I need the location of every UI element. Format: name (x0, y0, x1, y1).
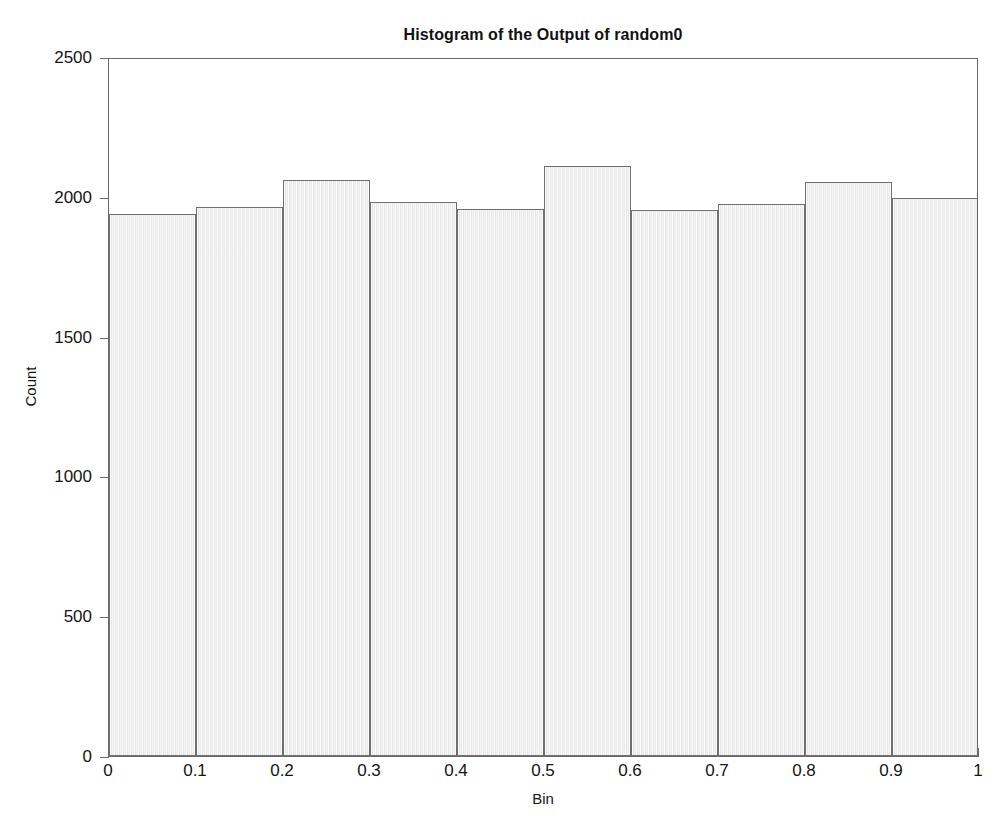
x-tick-mark (717, 748, 718, 757)
y-tick-mark (100, 617, 109, 618)
y-tick-mark (100, 198, 109, 199)
chart-title: Histogram of the Output of random0 (108, 26, 978, 44)
y-tick-label: 1500 (54, 329, 92, 346)
x-axis-label: Bin (108, 790, 978, 807)
y-tick-mark (100, 477, 109, 478)
histogram-bar (631, 210, 718, 756)
x-tick-mark (282, 748, 283, 757)
y-axis-label: Count (22, 327, 39, 447)
y-tick-label: 1000 (54, 468, 92, 485)
histogram-bar (892, 198, 978, 756)
x-tick-label: 0.6 (618, 762, 642, 779)
x-tick-label: 0.2 (270, 762, 294, 779)
x-tick-mark (804, 748, 805, 757)
y-tick-mark (100, 58, 109, 59)
histogram-bar (718, 204, 805, 756)
x-tick-mark (891, 748, 892, 757)
y-tick-mark (100, 757, 109, 758)
x-tick-label: 0.4 (444, 762, 468, 779)
x-tick-mark (978, 748, 979, 757)
histogram-figure: Histogram of the Output of random0 Bin C… (0, 0, 1000, 838)
x-tick-label: 0.8 (792, 762, 816, 779)
y-tick-label: 0 (83, 748, 92, 765)
histogram-bar (283, 180, 370, 756)
x-tick-label: 0.1 (183, 762, 207, 779)
x-tick-mark (369, 748, 370, 757)
y-tick-mark (100, 338, 109, 339)
histogram-bar (457, 209, 544, 756)
x-tick-mark (630, 748, 631, 757)
x-tick-label: 0.3 (357, 762, 381, 779)
x-tick-label: 0 (103, 762, 112, 779)
x-tick-mark (108, 748, 109, 757)
x-tick-label: 0.9 (879, 762, 903, 779)
plot-area (108, 58, 978, 757)
y-tick-label: 2000 (54, 189, 92, 206)
histogram-bar (805, 182, 892, 756)
x-tick-mark (456, 748, 457, 757)
y-tick-label: 500 (64, 608, 92, 625)
x-tick-label: 1 (973, 762, 982, 779)
histogram-bar (544, 166, 631, 756)
x-tick-mark (195, 748, 196, 757)
y-tick-label: 2500 (54, 49, 92, 66)
x-tick-label: 0.5 (531, 762, 555, 779)
histogram-bar (196, 207, 283, 756)
histogram-bar (109, 214, 196, 756)
histogram-bar (370, 202, 457, 756)
x-tick-label: 0.7 (705, 762, 729, 779)
x-tick-mark (543, 748, 544, 757)
